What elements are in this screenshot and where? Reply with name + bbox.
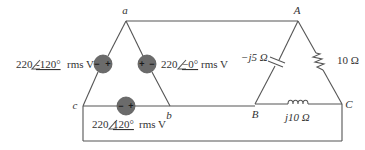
- source-right-label: 220 −0° rms V: [161, 58, 228, 70]
- magnitude: 220: [161, 58, 178, 70]
- node-label-b: b: [166, 109, 172, 121]
- inductor-symbol: [288, 100, 308, 104]
- voltage-source-right: + −: [138, 55, 156, 73]
- node-label-B: B: [252, 108, 259, 120]
- capacitor-label: −j5 Ω: [241, 51, 268, 63]
- node-label-c: c: [73, 99, 78, 111]
- plus-sign: +: [105, 59, 110, 69]
- voltage-source-left: − +: [94, 55, 112, 73]
- unit: rms V: [67, 58, 94, 70]
- magnitude: 220: [92, 118, 109, 130]
- unit: rms V: [139, 118, 166, 130]
- angle: -120°: [36, 58, 61, 70]
- node-label-a: a: [122, 4, 128, 16]
- voltage-source-bottom: − +: [117, 97, 135, 115]
- circuit-diagram: − + + − − + a b c A B C 220 -120° rms V …: [0, 0, 365, 150]
- angle: 120°: [113, 118, 134, 130]
- wire-A-to-resistor: [298, 21, 316, 53]
- wire-right-source-to-b: [152, 72, 170, 106]
- resistor-label: 10 Ω: [337, 54, 359, 66]
- capacitor-symbol: [268, 57, 285, 67]
- magnitude: 220: [16, 58, 33, 70]
- wire-a-to-right-source: [126, 21, 143, 56]
- minus-sign: −: [149, 59, 154, 69]
- unit: rms V: [201, 58, 228, 70]
- plus-sign: +: [128, 101, 133, 111]
- angle: −0°: [182, 58, 198, 70]
- minus-sign: −: [118, 101, 123, 111]
- wire-A-to-capacitor: [279, 21, 298, 60]
- source-bottom-label: 220 120° rms V: [92, 118, 166, 130]
- resistor-symbol: [313, 53, 324, 70]
- node-label-C: C: [345, 98, 353, 110]
- wire-a-to-left-source: [108, 21, 126, 56]
- wire-capacitor-to-B: [255, 66, 275, 104]
- source-left-label: 220 -120° rms V: [16, 58, 94, 70]
- wire-left-source-to-c: [83, 72, 98, 106]
- inductor-label: j10 Ω: [283, 111, 310, 123]
- wire-resistor-to-C: [323, 70, 342, 104]
- node-label-A: A: [293, 4, 301, 16]
- plus-sign: +: [139, 59, 144, 69]
- minus-sign: −: [94, 59, 99, 69]
